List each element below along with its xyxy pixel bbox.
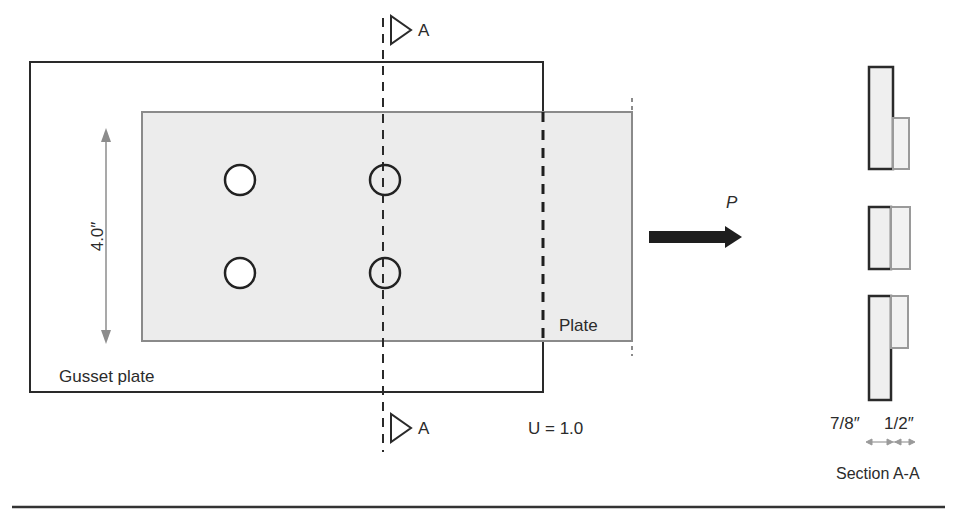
load-label: P	[726, 194, 737, 211]
thickness-plate-label: 1/2″	[884, 415, 914, 432]
bolt-hole	[225, 165, 255, 195]
thickness-dimension-arrows-icon	[866, 439, 915, 445]
plate-label: Plate	[559, 317, 598, 334]
diagram-canvas	[0, 0, 957, 512]
thickness-gusset-label: 7/8″	[830, 415, 860, 432]
section-marker-bottom-icon	[391, 414, 411, 442]
section-label-bottom: A	[418, 420, 429, 437]
load-arrow-icon	[649, 226, 742, 248]
section-title: Section A-A	[836, 466, 920, 482]
section-view-bottom	[869, 296, 908, 400]
section-marker-top-icon	[391, 16, 411, 44]
shear-lag-label: U = 1.0	[528, 420, 583, 437]
gusset-plate-label: Gusset plate	[59, 368, 154, 385]
dimension-label-width: 4.0″	[89, 212, 106, 262]
section-view-middle	[869, 207, 910, 269]
section-label-top: A	[418, 22, 429, 39]
bolt-hole	[225, 258, 255, 288]
section-view-top	[869, 67, 909, 169]
plate	[142, 112, 632, 341]
